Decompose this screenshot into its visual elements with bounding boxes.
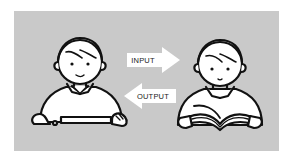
reading-person [178,40,262,130]
output-label: OUTPUT [137,92,169,101]
illustration: INPUT OUTPUT [0,0,295,159]
input-arrow: INPUT [127,47,180,73]
output-arrow: OUTPUT [124,83,176,109]
typing-person [32,38,126,126]
input-label: INPUT [131,56,155,65]
